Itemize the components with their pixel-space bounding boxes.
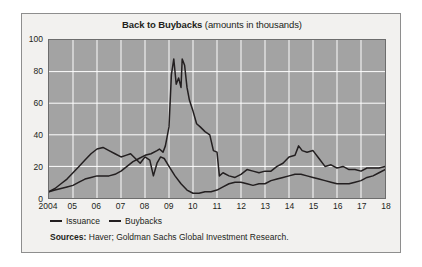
sources-label: Sources:: [50, 232, 86, 242]
y-axis-labels: 020406080100: [22, 39, 46, 199]
x-axis-tick-label: 17: [357, 201, 366, 211]
y-axis-tick-label: 60: [34, 98, 43, 108]
x-axis-tick-label: 15: [309, 201, 318, 211]
x-axis-labels: 20040506070809101112131415161718: [48, 201, 386, 215]
chart-screenshot: Back to Buybacks (amounts in thousands) …: [0, 0, 422, 267]
legend-item-issuance[interactable]: Issuance: [50, 216, 100, 226]
plot-area: [48, 39, 386, 199]
chart-area: 020406080100 200405060708091011121314151…: [22, 14, 402, 254]
x-axis-tick-label: 05: [67, 201, 76, 211]
x-axis-tick-label: 09: [164, 201, 173, 211]
plot-svg: [49, 40, 385, 198]
legend-line-swatch: [109, 220, 121, 222]
x-axis-tick-label: 13: [261, 201, 270, 211]
x-axis-tick-label: 10: [188, 201, 197, 211]
y-axis-tick-label: 40: [34, 130, 43, 140]
sources-note: Sources: Haver; Goldman Sachs Global Inv…: [50, 232, 395, 242]
x-axis-tick-label: 12: [236, 201, 245, 211]
x-axis-tick-label: 16: [333, 201, 342, 211]
chart-card: Back to Buybacks (amounts in thousands) …: [21, 13, 401, 253]
legend-item-buybacks[interactable]: Buybacks: [109, 216, 162, 226]
chart-legend: IssuanceBuybacks: [50, 216, 162, 226]
x-axis-tick-label: 07: [116, 201, 125, 211]
y-axis-tick-label: 100: [29, 34, 43, 44]
legend-line-swatch: [50, 220, 62, 222]
x-axis-tick-label: 2004: [39, 201, 58, 211]
legend-item-label: Issuance: [66, 216, 100, 226]
y-axis-tick-label: 80: [34, 66, 43, 76]
x-axis-tick-label: 11: [213, 201, 222, 211]
x-axis-tick-label: 14: [285, 201, 294, 211]
x-axis-tick-label: 06: [92, 201, 101, 211]
x-axis-tick-label: 08: [140, 201, 149, 211]
y-axis-tick-label: 20: [34, 162, 43, 172]
sources-text: Haver; Goldman Sachs Global Investment R…: [86, 232, 288, 242]
legend-item-label: Buybacks: [125, 216, 162, 226]
x-axis-tick-label: 18: [381, 201, 390, 211]
